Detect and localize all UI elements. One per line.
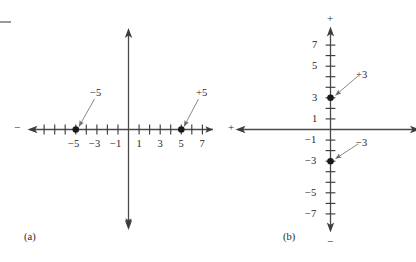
panel-b: 7 5 3 1 −1 −3 −5 −7 + − +3 −3 (b) — [0, 0, 416, 262]
panel-b-tick-label-3: 3 — [312, 93, 317, 104]
panel-b-leader-minus-3 — [336, 144, 359, 159]
panel-b-horizontal-axis — [236, 126, 416, 133]
panel-b-point-minus-3 — [327, 158, 334, 165]
figure-root: −5 −3 −1 1 3 5 7 − + −5 +5 (a) — [0, 0, 416, 262]
panel-b-tick-label-minus-5: −5 — [305, 188, 316, 199]
panel-b-point-plus-3 — [327, 95, 334, 102]
panel-b-negative-direction-sign: − — [327, 236, 333, 247]
panel-b-callout-plus-3: +3 — [356, 70, 367, 81]
panel-b-callout-minus-3: −3 — [356, 138, 367, 149]
panel-b-leader-plus-3 — [336, 76, 359, 95]
panel-b-axis-layer — [0, 0, 416, 262]
panel-b-tick-label-5: 5 — [312, 61, 317, 72]
panel-b-tick-label-1: 1 — [312, 114, 317, 125]
panel-b-tick-label-7: 7 — [312, 40, 317, 51]
panel-b-tick-label-minus-7: −7 — [305, 209, 316, 220]
panel-b-positive-direction-sign: + — [327, 13, 333, 24]
panel-b-caption: (b) — [283, 232, 295, 243]
panel-b-tick-label-minus-1: −1 — [305, 135, 316, 146]
panel-b-tick-label-minus-3: −3 — [305, 156, 316, 167]
